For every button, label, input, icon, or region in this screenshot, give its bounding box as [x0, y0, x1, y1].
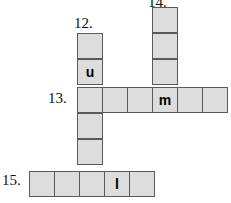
crossword-cell[interactable]: [202, 87, 228, 113]
crossword-grid: uml12.14.13.15.: [0, 0, 231, 203]
crossword-cell[interactable]: [102, 87, 128, 113]
crossword-cell[interactable]: [29, 171, 55, 197]
crossword-cell[interactable]: m: [152, 87, 178, 113]
crossword-cell[interactable]: [77, 113, 103, 139]
crossword-cell[interactable]: [152, 59, 178, 85]
clue-number-14: 14.: [148, 0, 167, 11]
crossword-cell[interactable]: l: [104, 171, 130, 197]
clue-number-15: 15.: [2, 172, 21, 189]
crossword-cell[interactable]: [77, 139, 103, 165]
crossword-cell[interactable]: [77, 33, 103, 59]
clue-number-12: 12.: [74, 15, 93, 32]
crossword-cell[interactable]: [129, 171, 155, 197]
crossword-cell[interactable]: [54, 171, 80, 197]
crossword-cell[interactable]: [177, 87, 203, 113]
crossword-cell[interactable]: u: [77, 59, 103, 85]
crossword-cell[interactable]: [77, 87, 103, 113]
clue-number-13: 13.: [48, 90, 67, 107]
crossword-cell[interactable]: [79, 171, 105, 197]
crossword-cell[interactable]: [127, 87, 153, 113]
crossword-cell[interactable]: [152, 33, 178, 59]
